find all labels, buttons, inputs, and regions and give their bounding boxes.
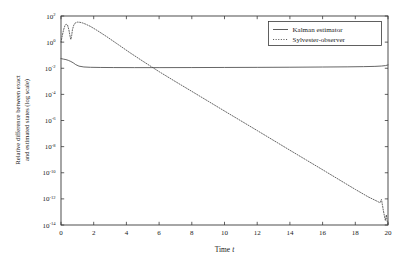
y-tick-label: 10-12 bbox=[42, 195, 56, 204]
y-axis-ticks bbox=[61, 16, 388, 225]
x-tick-label: 10 bbox=[221, 229, 229, 237]
x-axis-title: Timet bbox=[215, 245, 236, 254]
y-axis-title-line-2: and estimated states (log scale) bbox=[23, 79, 31, 161]
relative-difference-log-plot: 10210010-210-410-610-810-1010-1210-14 02… bbox=[0, 0, 403, 264]
plot-frame bbox=[61, 16, 388, 225]
x-tick-label: 14 bbox=[286, 229, 294, 237]
x-tick-label: 20 bbox=[385, 229, 393, 237]
x-axis-tick-labels: 02468101214161820 bbox=[59, 229, 392, 237]
x-tick-label: 2 bbox=[92, 229, 96, 237]
x-tick-label: 6 bbox=[157, 229, 161, 237]
x-axis-title-variable: t bbox=[232, 245, 235, 254]
legend-label-kalman-estimator: Kalman estimator bbox=[293, 26, 344, 34]
y-axis-tick-labels: 10210010-210-410-610-810-1010-1210-14 bbox=[42, 12, 56, 230]
x-tick-label: 12 bbox=[254, 229, 262, 237]
series-line-kalman-estimator bbox=[61, 59, 388, 68]
x-tick-label: 0 bbox=[59, 229, 63, 237]
y-tick-label: 10-6 bbox=[45, 116, 57, 125]
y-tick-label: 102 bbox=[46, 12, 56, 21]
legend[interactable]: Kalman estimator Sylvester-observer bbox=[269, 22, 382, 46]
y-tick-label: 10-10 bbox=[42, 169, 56, 178]
x-axis-title-text: Time bbox=[215, 245, 231, 254]
series-line-sylvester-observer bbox=[61, 22, 388, 224]
y-tick-label: 100 bbox=[46, 38, 56, 47]
x-tick-label: 18 bbox=[352, 229, 360, 237]
x-tick-label: 16 bbox=[319, 229, 327, 237]
y-tick-label: 10-8 bbox=[45, 143, 57, 152]
x-tick-label: 4 bbox=[125, 229, 129, 237]
y-axis-title: Relative difference between exact and es… bbox=[14, 75, 31, 165]
y-axis-title-line-1: Relative difference between exact bbox=[14, 75, 21, 165]
y-tick-label: 10-2 bbox=[45, 64, 57, 73]
x-axis-ticks bbox=[61, 16, 388, 225]
y-tick-label: 10-4 bbox=[45, 90, 57, 99]
figure-container: 10210010-210-410-610-810-1010-1210-14 02… bbox=[0, 0, 403, 264]
y-tick-label: 10-14 bbox=[42, 221, 56, 230]
x-tick-label: 8 bbox=[190, 229, 194, 237]
legend-label-sylvester-observer: Sylvester-observer bbox=[293, 36, 346, 44]
